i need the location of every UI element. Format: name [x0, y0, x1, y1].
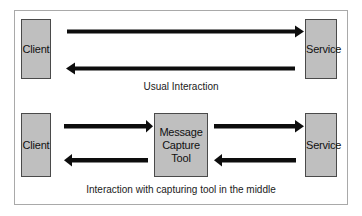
node-service-top-label: Service [306, 43, 336, 55]
diagram-canvas: Client Service Client Message Capture To… [0, 0, 362, 216]
node-message-capture-tool-label: Message Capture Tool [155, 126, 207, 165]
caption-capturing-tool: Interaction with capturing tool in the m… [0, 184, 362, 195]
node-service-bottom: Service [305, 113, 337, 177]
node-service-top: Service [305, 19, 337, 79]
node-client-top: Client [21, 19, 51, 79]
node-client-bottom: Client [21, 113, 51, 177]
node-message-capture-tool: Message Capture Tool [154, 113, 208, 177]
node-client-bottom-label: Client [22, 139, 50, 151]
node-client-top-label: Client [22, 43, 50, 55]
node-service-bottom-label: Service [306, 139, 336, 151]
caption-usual-interaction: Usual Interaction [0, 81, 362, 92]
